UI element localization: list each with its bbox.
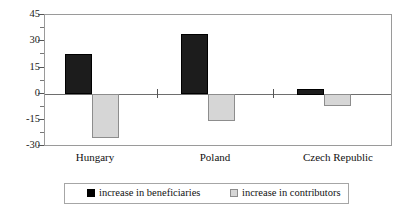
y-axis-tick-label: 0 — [10, 88, 40, 99]
y-axis-tick-label: 45 — [10, 9, 40, 20]
legend-swatch-dark-square-icon — [87, 189, 95, 197]
x-axis-separator-tick — [273, 89, 274, 98]
bar-poland-beneficiaries — [181, 34, 208, 94]
chart-legend: increase in beneficiaries increase in co… — [64, 183, 349, 204]
plot-area — [44, 14, 392, 146]
y-axis-tick-label: 15 — [10, 62, 40, 73]
legend-swatch-light-square-icon — [230, 189, 238, 197]
legend-label: increase in contributors — [242, 188, 341, 199]
bar-chart: 45 30 15 0 -15 -30 Hungary Pola — [0, 0, 408, 211]
x-axis-separator-tick — [157, 89, 158, 98]
bar-hungary-beneficiaries — [65, 54, 92, 94]
bar-hungary-contributors — [92, 94, 119, 138]
legend-label: increase in beneficiaries — [99, 188, 200, 199]
y-axis-tick-label: -30 — [10, 140, 40, 151]
legend-item-beneficiaries: increase in beneficiaries — [87, 188, 200, 199]
category-label-poland: Poland — [180, 152, 250, 163]
category-label-czech-republic: Czech Republic — [288, 152, 388, 163]
category-label-hungary: Hungary — [60, 152, 130, 163]
y-axis-tick-label: 30 — [10, 35, 40, 46]
bar-czech-republic-beneficiaries — [297, 89, 324, 95]
legend-item-contributors: increase in contributors — [230, 188, 341, 199]
bar-poland-contributors — [208, 94, 235, 121]
bar-czech-republic-contributors — [324, 94, 351, 106]
y-axis-tick-label: -15 — [10, 114, 40, 125]
